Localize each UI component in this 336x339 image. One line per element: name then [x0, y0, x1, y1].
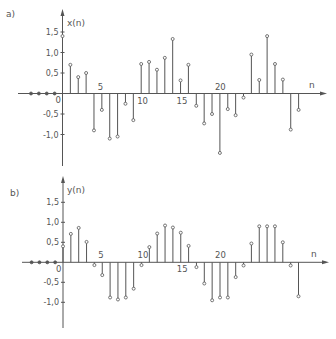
stem-marker: [297, 295, 300, 298]
y-tick-label: 1,0: [46, 218, 59, 227]
stem-marker: [203, 282, 206, 285]
x-tick-label: 15: [177, 264, 188, 274]
stem-plot-figure: a) x(n) n 1,51,00,5-0,5-1,005101520 b) y…: [0, 0, 336, 339]
stem-marker: [38, 261, 41, 264]
stem-marker: [140, 264, 143, 267]
stem-marker: [108, 137, 111, 140]
stem-marker: [54, 261, 57, 264]
stem-marker: [92, 129, 95, 132]
x-axis-label-b: n: [311, 249, 317, 259]
x-tick-label: 20: [215, 82, 226, 92]
stem-marker: [281, 78, 284, 81]
stem-marker: [116, 135, 119, 138]
y-tick-label: 1,5: [46, 198, 59, 207]
stem-marker: [179, 231, 182, 234]
stem-marker: [46, 261, 49, 264]
stem-marker: [250, 53, 253, 56]
y-tick-label: 1,0: [46, 49, 59, 58]
x-tick-label: 5: [98, 250, 103, 260]
stem-marker: [289, 128, 292, 131]
stem-marker: [289, 264, 292, 267]
stem-marker: [155, 68, 158, 71]
stem-marker: [218, 151, 221, 154]
y-axis-label-b: y(n): [67, 185, 85, 195]
stem-marker: [297, 108, 300, 111]
stem-marker: [77, 76, 80, 79]
y-axis-arrow-icon: [61, 176, 65, 183]
stem-marker: [77, 226, 80, 229]
x-tick-label: 0: [56, 264, 61, 274]
y-axis-label-a: x(n): [67, 18, 85, 28]
panel-b-axes-and-stems: 1,51,00,5-0,5-1,005101520: [22, 176, 329, 328]
stem-marker: [101, 274, 104, 277]
x-tick-label: 10: [137, 96, 148, 106]
stem-marker: [266, 35, 269, 38]
stem-marker: [179, 79, 182, 82]
stem-marker: [140, 62, 143, 65]
stem-marker: [195, 104, 198, 107]
stem-marker: [69, 63, 72, 66]
stem-marker: [266, 225, 269, 228]
stem-marker: [85, 240, 88, 243]
stem-marker: [234, 114, 237, 117]
stem-marker: [45, 92, 48, 95]
stem-marker: [100, 108, 103, 111]
stem-marker: [93, 264, 96, 267]
stem-marker: [242, 96, 245, 99]
panel-label-a: a): [6, 9, 15, 19]
stem-marker: [281, 241, 284, 244]
stem-marker: [211, 113, 214, 116]
stem-marker: [156, 232, 159, 235]
stem-marker: [273, 62, 276, 65]
stem-marker: [187, 244, 190, 247]
stem-marker: [132, 287, 135, 290]
stem-marker: [132, 119, 135, 122]
x-tick-label: 0: [56, 95, 61, 105]
stem-marker: [171, 37, 174, 40]
y-tick-label: -1,0: [43, 298, 59, 307]
y-axis-arrow-icon: [61, 9, 65, 16]
y-tick-label: -0,5: [43, 278, 59, 287]
stem-marker: [124, 102, 127, 105]
stem-marker: [124, 296, 127, 299]
stem-marker: [116, 298, 119, 301]
stem-marker: [226, 296, 229, 299]
stem-marker: [62, 245, 65, 248]
x-tick-label: 15: [177, 96, 188, 106]
stem-marker: [109, 296, 112, 299]
x-axis-arrow-icon: [320, 92, 327, 96]
stem-marker: [69, 232, 72, 235]
panel-a-axes-and-stems: 1,51,00,5-0,5-1,005101520: [18, 9, 327, 166]
stem-marker: [234, 276, 237, 279]
stem-marker: [226, 108, 229, 111]
stem-marker: [258, 225, 261, 228]
x-tick-label: 20: [215, 250, 226, 260]
stem-marker: [53, 92, 56, 95]
y-tick-label: -0,5: [43, 110, 59, 119]
panel-a-xn-plot: a) x(n) n 1,51,00,5-0,5-1,005101520: [6, 9, 327, 166]
x-axis-label-a: n: [309, 80, 315, 90]
stem-marker: [203, 122, 206, 125]
stem-marker: [85, 72, 88, 75]
y-tick-label: 1,5: [46, 28, 59, 37]
stem-marker: [164, 224, 167, 227]
panel-label-b: b): [10, 188, 19, 198]
stem-marker: [187, 63, 190, 66]
stem-marker: [258, 78, 261, 81]
stem-marker: [30, 92, 33, 95]
stem-marker: [242, 264, 245, 267]
x-axis-arrow-icon: [322, 260, 329, 264]
stem-marker: [148, 246, 151, 249]
stem-marker: [219, 296, 222, 299]
y-tick-label: -1,0: [43, 131, 59, 140]
stem-marker: [148, 60, 151, 63]
stem-marker: [30, 261, 33, 264]
stem-marker: [37, 92, 40, 95]
y-tick-label: 0,5: [46, 69, 59, 78]
stem-marker: [163, 56, 166, 59]
stem-marker: [273, 225, 276, 228]
stem-marker: [61, 35, 64, 38]
y-tick-label: 0,5: [46, 238, 59, 247]
panel-b-yn-plot: b) y(n) n 1,51,00,5-0,5-1,005101520: [10, 176, 329, 328]
stem-marker: [250, 242, 253, 245]
